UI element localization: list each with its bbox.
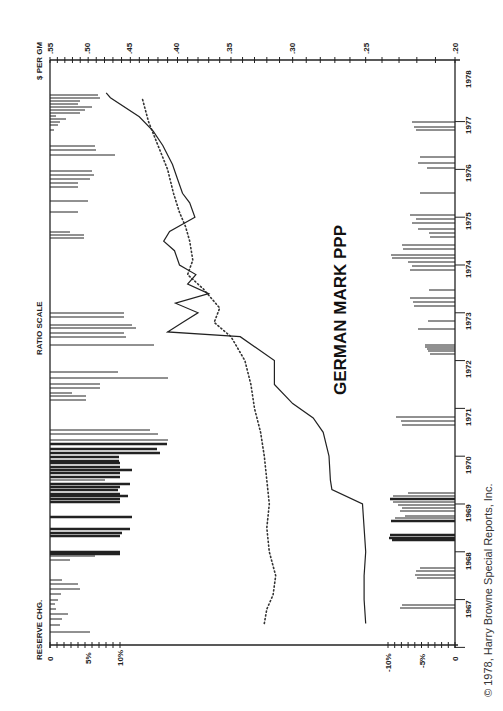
ppp-dotted-line: [142, 98, 276, 624]
year-label: 1968: [464, 552, 473, 570]
year-label: 1967: [464, 600, 473, 618]
top-axis-label: $ PER GM: [35, 41, 44, 80]
year-label: 1975: [464, 212, 473, 230]
tick-label: .25: [362, 42, 371, 54]
year-label: 1970: [464, 456, 473, 474]
year-label: 1973: [464, 312, 473, 330]
tick-label: .30: [288, 42, 297, 54]
reserve-chg-label: RESERVE CHG.: [35, 600, 44, 660]
year-label: 1978: [464, 70, 473, 88]
year-label: 1974: [464, 260, 473, 278]
tick-label: .50: [83, 42, 92, 54]
copyright-note: © 1978, Harry Browne Special Reports, In…: [482, 483, 494, 697]
left-reserve-tick-5: 5%: [84, 652, 93, 664]
ratio-scale-label: RATIO SCALE: [35, 301, 44, 355]
year-label: 1976: [464, 164, 473, 182]
tick-label: .40: [172, 42, 181, 54]
german-mark-ppp-chart: .55 .50 .45 .40 .35 .30 .25 .20 $ PER GM…: [0, 0, 503, 711]
exchange-rate-line: [106, 93, 366, 624]
reserve-decrease-bars: [389, 122, 455, 608]
year-labels: 1978 1977 1976 1975 1974 1973 1972 1971 …: [464, 70, 473, 618]
right-reserve-tick-neg5: -5%: [418, 654, 427, 668]
year-label: 1972: [464, 360, 473, 378]
tick-label: .55: [46, 42, 55, 54]
right-reserve-tick-neg10: -10%: [384, 653, 393, 672]
reserve-increase-bars: [50, 95, 168, 632]
tick-label: .35: [225, 42, 234, 54]
axes: [50, 60, 460, 648]
tick-label: .20: [451, 42, 460, 54]
left-reserve-tick-10: 10%: [116, 650, 125, 666]
chart-title: GERMAN MARK PPP: [331, 225, 350, 395]
top-tick-labels: .55 .50 .45 .40 .35 .30 .25 .20: [46, 42, 460, 54]
tick-label: .45: [125, 42, 134, 54]
right-reserve-tick-0: 0: [451, 656, 460, 661]
year-label: 1969: [464, 504, 473, 522]
left-reserve-tick-0: 0: [46, 656, 55, 661]
year-label: 1971: [464, 408, 473, 426]
year-label: 1977: [464, 116, 473, 134]
